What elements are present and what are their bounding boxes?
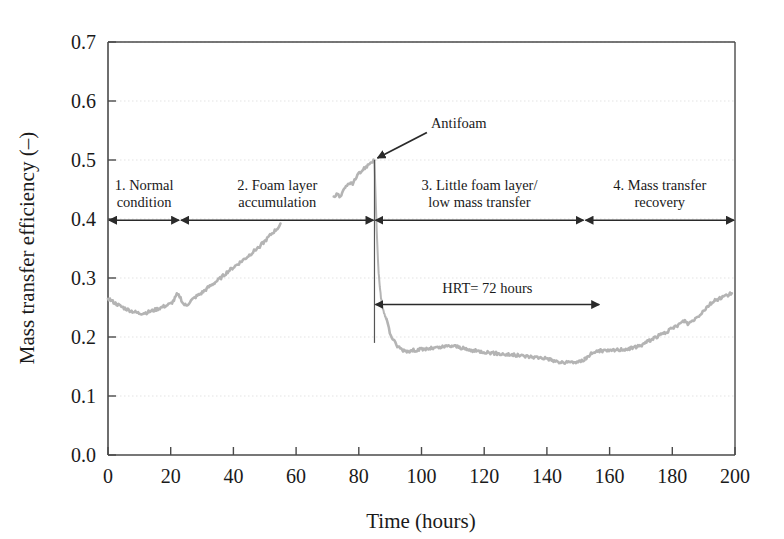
y-axis-title: Mass transfer efficiency (–) <box>15 132 39 364</box>
antifoam-label: Antifoam <box>431 115 487 131</box>
x-tick-label-180: 180 <box>657 465 687 487</box>
x-tick-label-160: 160 <box>595 465 625 487</box>
x-tick-label-100: 100 <box>407 465 437 487</box>
phase-label-3-line1: 3. Little foam layer/ <box>422 177 539 193</box>
x-tick-label-0: 0 <box>103 465 113 487</box>
y-tick-label-0.6: 0.6 <box>71 90 96 112</box>
phase-label-4-line2: recovery <box>634 194 685 210</box>
mass-transfer-efficiency-chart: 0.00.10.20.30.40.50.60.7 020406080100120… <box>0 0 784 539</box>
y-tick-label-0.5: 0.5 <box>71 149 96 171</box>
y-tick-label-0.2: 0.2 <box>71 326 96 348</box>
y-tick-label-0.7: 0.7 <box>71 31 96 53</box>
y-tick-label-0.3: 0.3 <box>71 267 96 289</box>
figure-container: 0.00.10.20.30.40.50.60.7 020406080100120… <box>0 0 784 539</box>
y-tick-label-0.4: 0.4 <box>71 208 96 230</box>
x-axis-title: Time (hours) <box>366 509 475 533</box>
phase-label-2-line2: accumulation <box>238 194 317 210</box>
x-tick-label-20: 20 <box>161 465 181 487</box>
x-tick-label-60: 60 <box>286 465 306 487</box>
hrt-label: HRT= 72 hours <box>442 280 533 296</box>
phase-label-3-line2: low mass transfer <box>428 194 530 210</box>
phase-label-1-line1: 1. Normal <box>115 177 174 193</box>
phase-label-1-line2: condition <box>117 194 173 210</box>
x-tick-label-40: 40 <box>223 465 243 487</box>
chart-background <box>0 0 784 539</box>
x-tick-label-80: 80 <box>349 465 369 487</box>
x-tick-label-140: 140 <box>532 465 562 487</box>
x-tick-label-200: 200 <box>720 465 750 487</box>
x-tick-label-120: 120 <box>469 465 499 487</box>
phase-label-2-line1: 2. Foam layer <box>237 177 317 193</box>
y-tick-label-0.0: 0.0 <box>71 444 96 466</box>
phase-label-4-line1: 4. Mass transfer <box>613 177 706 193</box>
y-tick-label-0.1: 0.1 <box>71 385 96 407</box>
